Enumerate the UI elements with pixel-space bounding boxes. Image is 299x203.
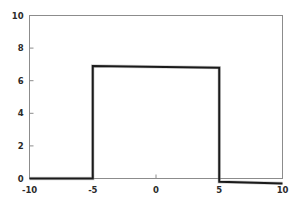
axes-frame: [30, 16, 283, 179]
x-tick-label: 0: [153, 186, 159, 195]
y-tick-label: 6: [2, 76, 24, 85]
x-tick-label: -10: [22, 186, 37, 195]
y-tick-label: 8: [2, 44, 24, 53]
y-tick-label: 2: [2, 142, 24, 151]
figure: 0246810 -10-50510: [0, 0, 299, 203]
x-tick-label: 10: [277, 186, 289, 195]
x-tick-label: 5: [216, 186, 222, 195]
y-tick-label: 4: [2, 109, 24, 118]
y-tick-label: 10: [2, 11, 24, 20]
plot-canvas: [0, 0, 299, 203]
x-tick-label: -5: [88, 186, 97, 195]
y-tick-label: 0: [2, 174, 24, 183]
